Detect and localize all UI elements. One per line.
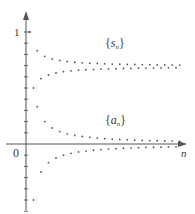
data-point [51, 127, 53, 129]
sequence-plot: 1 0 n {sn} {an} [0, 0, 195, 214]
data-point [108, 68, 110, 70]
data-point [119, 63, 121, 65]
data-point [138, 147, 140, 149]
y-axis-arrow-icon [23, 11, 29, 20]
y-tick-label-1: 1 [14, 26, 20, 38]
data-point [100, 68, 102, 70]
data-point [145, 147, 147, 149]
data-point [29, 31, 31, 33]
data-point [40, 78, 42, 80]
data-point [104, 63, 106, 65]
data-point [141, 64, 143, 66]
data-point [153, 146, 155, 148]
data-point [126, 63, 128, 65]
data-point [44, 55, 46, 57]
data-point [111, 63, 113, 65]
data-point [179, 64, 181, 66]
data-point [36, 50, 38, 52]
data-point [119, 139, 121, 141]
data-point [96, 137, 98, 139]
data-point [100, 149, 102, 151]
data-point [48, 74, 50, 76]
data-point [115, 148, 117, 150]
data-point [93, 69, 95, 71]
data-point [48, 162, 50, 164]
data-point [160, 146, 162, 148]
data-point [126, 139, 128, 141]
data-point [74, 61, 76, 63]
data-point [156, 64, 158, 66]
svg-text:{sn}: {sn} [105, 36, 125, 51]
data-point [156, 140, 158, 142]
data-point [104, 138, 106, 140]
legend-label-s-n: {sn} [105, 36, 125, 51]
data-point [93, 149, 95, 151]
data-point [66, 61, 68, 63]
origin-label: 0 [13, 146, 19, 160]
data-point [164, 140, 166, 142]
svg-text:{an}: {an} [105, 113, 126, 128]
data-point [149, 140, 151, 142]
data-point [164, 64, 166, 66]
data-point [111, 138, 113, 140]
data-point [36, 106, 38, 108]
data-point [70, 152, 72, 154]
axes [6, 11, 187, 210]
x-axis-label: n [181, 147, 187, 159]
data-point [145, 67, 147, 69]
data-point [66, 133, 68, 135]
data-point [44, 121, 46, 123]
data-point [130, 147, 132, 149]
data-point [74, 134, 76, 136]
data-point [33, 87, 35, 89]
data-point [96, 63, 98, 65]
y-axis-ticks [24, 32, 30, 211]
data-point [153, 67, 155, 69]
data-point [81, 136, 83, 138]
data-point [123, 147, 125, 149]
data-point [40, 171, 42, 173]
data-point [115, 68, 117, 70]
data-point [160, 67, 162, 69]
data-point [70, 70, 72, 72]
data-point [59, 60, 61, 62]
data-point [78, 151, 80, 153]
legend-label-a-n: {an} [105, 113, 126, 128]
data-point [168, 146, 170, 148]
data-point [85, 69, 87, 71]
data-point [89, 62, 91, 64]
data-point [33, 199, 35, 201]
data-point [149, 64, 151, 66]
data-point [108, 148, 110, 150]
data-point [134, 139, 136, 141]
data-point [55, 72, 57, 74]
data-point [63, 154, 65, 156]
data-point [59, 131, 61, 133]
data-point [168, 67, 170, 69]
data-point [130, 68, 132, 70]
data-point [63, 71, 65, 73]
data-point [81, 62, 83, 64]
data-point [123, 68, 125, 70]
data-point [51, 58, 53, 60]
data-point [175, 67, 177, 69]
data-point [175, 146, 177, 148]
data-point [55, 157, 57, 159]
data-point [85, 150, 87, 152]
data-point [171, 64, 173, 66]
data-point [179, 140, 181, 142]
data-point [78, 69, 80, 71]
data-point [141, 140, 143, 142]
data-point [171, 140, 173, 142]
data-point [138, 67, 140, 69]
data-point [89, 136, 91, 138]
data-point [134, 64, 136, 66]
